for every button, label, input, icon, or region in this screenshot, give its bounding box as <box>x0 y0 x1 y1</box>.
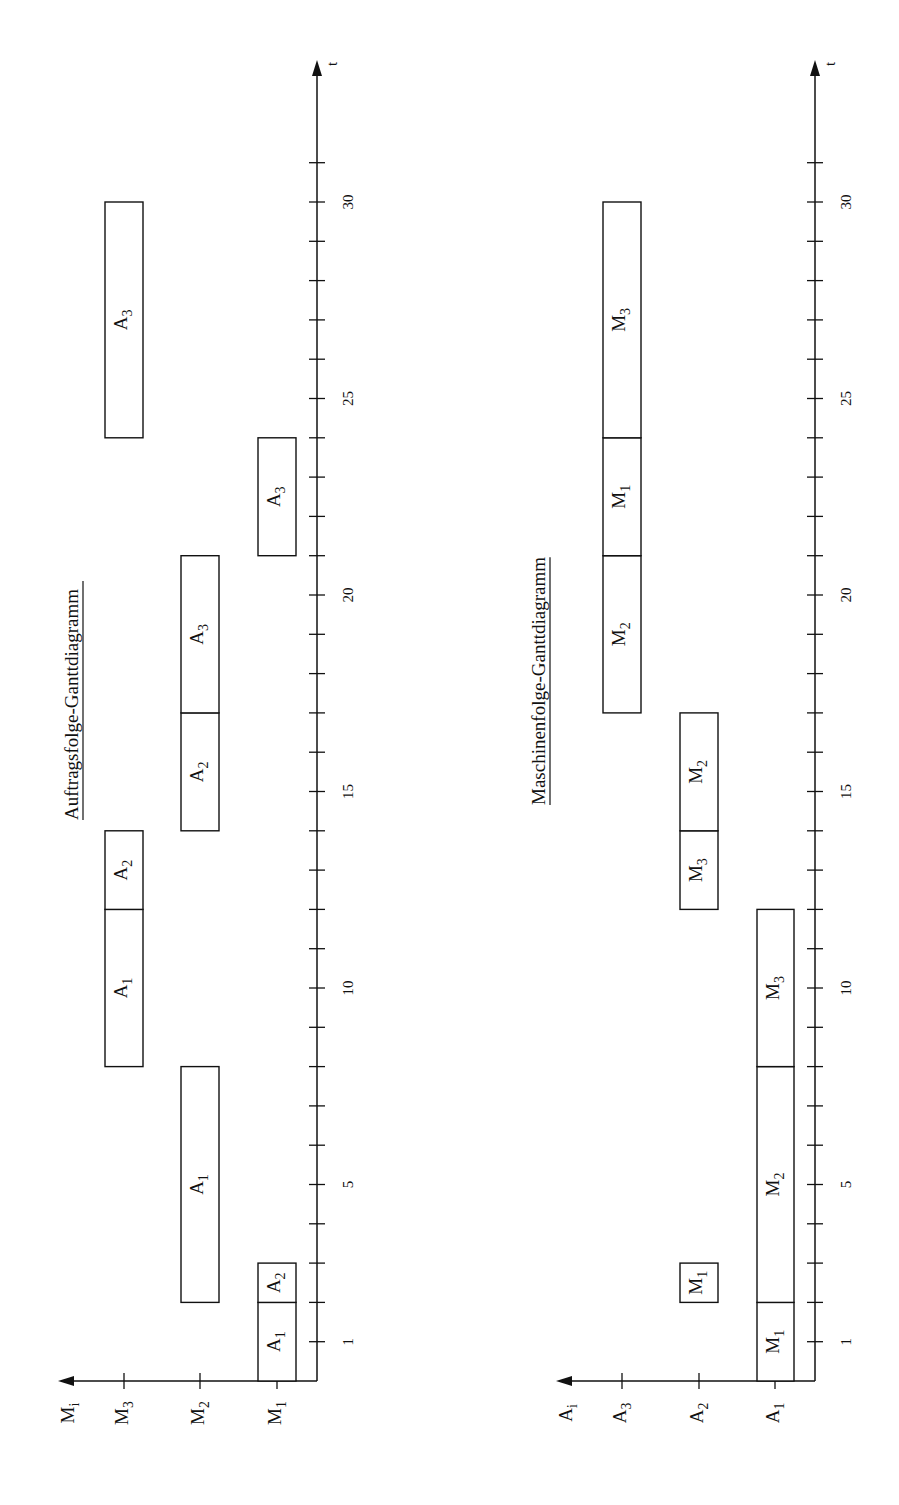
gantt-bar-m1-a3: A3 <box>258 438 296 556</box>
svg-text:25: 25 <box>838 391 854 406</box>
svg-text:1: 1 <box>340 1338 356 1346</box>
svg-text:Auftragsfolge-Ganttdiagramm: Auftragsfolge-Ganttdiagramm <box>61 589 82 820</box>
time-axis-label: t <box>324 61 340 66</box>
svg-text:M2: M2 <box>187 1401 211 1425</box>
gantt-bar-m3-a1: A1 <box>105 909 143 1066</box>
time-tick-label: 20 <box>340 588 356 603</box>
gantt-bar-m1-a1: A1 <box>258 1302 296 1381</box>
time-tick-label: 30 <box>838 195 854 210</box>
gantt-canvas: Auftragsfolge-Ganttdiagrammt151015202530… <box>0 0 899 1505</box>
resource-label-a2: A2 <box>686 1403 710 1424</box>
time-axis-label: t <box>822 61 838 66</box>
time-tick-label: 25 <box>838 391 854 406</box>
gantt-bar-a2-m2: M2 <box>680 713 718 831</box>
resource-label-m3: M3 <box>111 1401 135 1425</box>
resource-label-a3: A3 <box>609 1403 633 1424</box>
svg-text:Ai: Ai <box>555 1404 580 1422</box>
svg-text:t: t <box>324 61 340 66</box>
svg-text:Mi: Mi <box>57 1402 82 1423</box>
gantt-bar-m2-a3: A3 <box>181 556 219 713</box>
svg-text:10: 10 <box>838 981 854 996</box>
time-tick-label: 25 <box>340 391 356 406</box>
svg-text:A1: A1 <box>762 1403 786 1424</box>
time-tick-label: 30 <box>340 195 356 210</box>
time-tick-label: 10 <box>838 981 854 996</box>
gantt-bar-m1-a2: A2 <box>258 1263 296 1302</box>
time-axis-arrow-icon <box>810 60 820 76</box>
gantt-bar-a1-m2: M2 <box>757 1067 794 1303</box>
svg-text:A2: A2 <box>686 1403 710 1424</box>
svg-text:5: 5 <box>340 1181 356 1189</box>
svg-text:15: 15 <box>340 784 356 799</box>
svg-text:25: 25 <box>340 391 356 406</box>
svg-text:20: 20 <box>340 588 356 603</box>
time-tick-label: 5 <box>340 1181 356 1189</box>
chart-title: Maschinenfolge-Ganttdiagramm <box>528 557 550 805</box>
time-tick-label: 10 <box>340 981 356 996</box>
svg-text:5: 5 <box>838 1181 854 1189</box>
resource-label-m1: M1 <box>264 1401 288 1425</box>
svg-text:M1: M1 <box>264 1401 288 1425</box>
maschinenfolge-gantt-chart: Maschinenfolge-Ganttdiagrammt15101520253… <box>528 60 854 1423</box>
gantt-bar-m2-a2: A2 <box>181 713 219 831</box>
chart-title: Auftragsfolge-Ganttdiagramm <box>61 581 83 820</box>
gantt-bar-m2-a1: A1 <box>181 1067 219 1303</box>
svg-text:20: 20 <box>838 588 854 603</box>
gantt-bar-m3-a3: A3 <box>105 202 143 438</box>
svg-text:M3: M3 <box>111 1401 135 1425</box>
svg-text:t: t <box>822 61 838 66</box>
gantt-bar-a2-m1: M1 <box>680 1263 718 1302</box>
resource-axis-label: Mi <box>57 1402 82 1423</box>
svg-text:1: 1 <box>838 1338 854 1346</box>
svg-text:10: 10 <box>340 981 356 996</box>
svg-text:15: 15 <box>838 784 854 799</box>
svg-text:30: 30 <box>340 195 356 210</box>
time-tick-label: 20 <box>838 588 854 603</box>
gantt-bar-a1-m3: M3 <box>757 909 794 1066</box>
gantt-bar-m3-a2: A2 <box>105 831 143 910</box>
time-tick-label: 5 <box>838 1181 854 1189</box>
svg-text:Maschinenfolge-Ganttdiagramm: Maschinenfolge-Ganttdiagramm <box>528 557 549 805</box>
time-tick-label: 15 <box>340 784 356 799</box>
time-axis-arrow-icon <box>312 60 322 76</box>
gantt-bar-a1-m1: M1 <box>757 1302 794 1381</box>
resource-axis-arrow-icon <box>556 1376 572 1386</box>
auftragsfolge-gantt-chart: Auftragsfolge-Ganttdiagrammt151015202530… <box>57 60 356 1425</box>
resource-label-a1: A1 <box>762 1403 786 1424</box>
svg-text:30: 30 <box>838 195 854 210</box>
svg-text:A3: A3 <box>609 1403 633 1424</box>
time-tick-label: 1 <box>340 1338 356 1346</box>
time-tick-label: 1 <box>838 1338 854 1346</box>
resource-label-m2: M2 <box>187 1401 211 1425</box>
gantt-bar-a3-m3: M3 <box>603 202 641 438</box>
gantt-bar-a2-m3: M3 <box>680 831 718 910</box>
resource-axis-label: Ai <box>555 1404 580 1422</box>
time-tick-label: 15 <box>838 784 854 799</box>
gantt-bar-a3-m2: M2 <box>603 556 641 713</box>
gantt-bar-a3-m1: M1 <box>603 438 641 556</box>
resource-axis-arrow-icon <box>58 1376 74 1386</box>
